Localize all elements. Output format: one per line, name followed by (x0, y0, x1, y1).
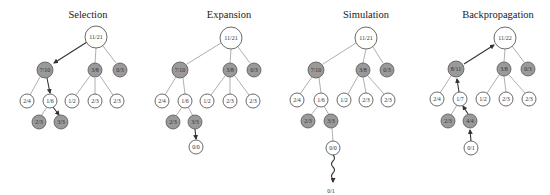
node-label: 0/3 (250, 67, 258, 73)
edge (183, 78, 185, 94)
edge (30, 77, 40, 95)
node-label: 2/3 (249, 98, 257, 104)
panel-backpropagation: Backpropagation 11/22 8/11 3/8 0/3 2/4 1… (430, 9, 536, 155)
edge (211, 76, 225, 95)
edge (363, 77, 366, 93)
edge (319, 78, 321, 93)
node-label: 2/3 (113, 98, 121, 104)
node-label: 2/3 (169, 119, 177, 125)
edge (188, 107, 193, 116)
node-label: 1/6 (46, 98, 54, 104)
node-label: 3/8 (226, 67, 234, 73)
simulation-result-label: 0/1 (327, 188, 335, 194)
node-label: 11/21 (359, 35, 372, 41)
node-label: 1/7 (456, 96, 464, 102)
node-label: 1/6 (317, 97, 325, 103)
node-label: 3/3 (327, 118, 335, 124)
node-label: 1/2 (479, 96, 487, 102)
mcts-diagram: Selection 11/21 7/10 3/8 0/3 2/4 1/6 1/2… (0, 0, 550, 195)
node-label: 0/3 (116, 67, 124, 73)
node-label: 0/0 (329, 145, 337, 151)
edge (165, 77, 176, 95)
node-label: 3/8 (91, 67, 99, 73)
node-label: 2/3 (362, 97, 370, 103)
edge (509, 75, 525, 93)
node-label: 1/2 (68, 98, 76, 104)
edge (512, 46, 524, 62)
edge (504, 49, 505, 62)
node-label: 2/3 (91, 98, 99, 104)
edge (235, 76, 249, 95)
node-label: 1/2 (203, 98, 211, 104)
panel-title: Simulation (343, 9, 390, 20)
edge (332, 128, 333, 141)
node-label: 2/4 (433, 96, 441, 102)
panel-title: Backpropagation (462, 9, 534, 20)
panel-expansion: Expansion 11/21 7/10 3/8 0/3 2/4 1/6 1/2… (155, 9, 261, 154)
node-label: 7/10 (175, 67, 186, 73)
selection-edge (54, 42, 87, 63)
node-label: 2/3 (35, 119, 43, 125)
node-label: 3/8 (359, 67, 367, 73)
backprop-edge (463, 106, 468, 114)
panel-selection: Selection 11/21 7/10 3/8 0/3 2/4 1/6 1/2… (20, 9, 127, 129)
selection-edge (47, 78, 50, 93)
edge (311, 106, 318, 115)
edge (230, 49, 231, 63)
node-label: 3/3 (191, 119, 199, 125)
panel-title: Expansion (207, 9, 252, 20)
node-label: 11/21 (224, 35, 237, 41)
edge (176, 107, 182, 116)
edge (76, 76, 90, 95)
node-label: 2/3 (226, 98, 234, 104)
node-label: 11/21 (89, 34, 102, 40)
node-label: 3/3 (57, 119, 65, 125)
node-label: 1/6 (181, 98, 189, 104)
node-label: 0/0 (192, 144, 200, 150)
edge (504, 76, 506, 92)
node-label: 0/3 (524, 66, 532, 72)
edge (238, 47, 250, 63)
node-label: 3/8 (500, 66, 508, 72)
selection-edge (53, 107, 59, 115)
edge (451, 105, 457, 115)
node-label: 4/4 (466, 118, 474, 124)
edge (373, 47, 383, 63)
node-label: 2/4 (23, 98, 31, 104)
backprop-edge (470, 130, 471, 141)
node-label: 11/22 (498, 35, 511, 41)
panel-title: Selection (68, 9, 108, 20)
node-label: 2/3 (525, 96, 533, 102)
edge (323, 43, 356, 64)
edge (41, 107, 47, 116)
node-label: 7/10 (40, 67, 51, 73)
edge (487, 75, 499, 93)
node-label: 2/4 (293, 97, 301, 103)
edge (103, 46, 116, 63)
edge (95, 48, 96, 63)
node-label: 2/3 (444, 118, 452, 124)
node-label: 7/10 (311, 67, 322, 73)
edge (187, 43, 221, 64)
edge (440, 76, 451, 93)
edge (348, 76, 358, 94)
expansion-edge (195, 129, 196, 139)
edge (368, 76, 384, 94)
node-label: 0/1 (467, 145, 475, 151)
node-label: 2/4 (158, 98, 166, 104)
edge (324, 106, 329, 115)
node-label: 2/3 (384, 97, 392, 103)
node-label: 8/11 (451, 66, 461, 72)
edge (300, 77, 312, 94)
edge (363, 49, 366, 63)
node-label: 2/3 (502, 96, 510, 102)
panel-simulation: Simulation 11/21 7/10 3/8 0/3 2/4 1/6 1/… (290, 9, 395, 194)
node-label: 0/3 (383, 67, 391, 73)
simulation-rollout-squiggle (332, 155, 335, 182)
edge (100, 76, 113, 95)
backprop-edge (457, 79, 459, 92)
backprop-edge (464, 45, 494, 64)
node-label: 1/2 (340, 97, 348, 103)
node-label: 2/3 (304, 118, 312, 124)
